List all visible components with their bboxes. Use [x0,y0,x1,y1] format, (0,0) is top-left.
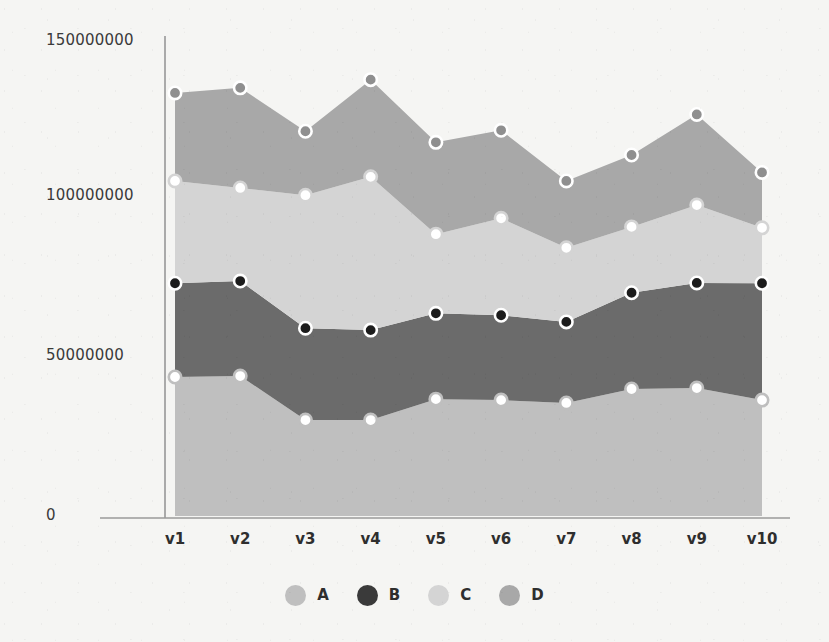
data-point-marker-c-v10[interactable] [756,222,768,234]
chart-legend: ABCD [0,578,829,612]
x-axis-tick-label-v9: v9 [687,530,707,548]
x-axis-tick-label-v2: v2 [230,530,250,548]
data-point-marker-b-v10[interactable] [756,277,768,289]
x-axis-tick-label-v10: v10 [747,530,778,548]
data-point-marker-b-v8[interactable] [625,287,637,299]
data-point-marker-c-v4[interactable] [364,171,376,183]
data-point-marker-c-v5[interactable] [430,228,442,240]
data-point-marker-b-v3[interactable] [299,322,311,334]
x-axis-tick-label-v5: v5 [426,530,446,548]
legend-label-c: C [460,586,471,604]
data-point-marker-c-v7[interactable] [560,242,572,254]
legend-swatch-b-icon [357,585,378,606]
data-point-marker-c-v9[interactable] [691,199,703,211]
data-point-marker-d-v2[interactable] [234,82,246,94]
data-point-marker-b-v9[interactable] [691,277,703,289]
legend-item-c[interactable]: C [428,585,471,606]
chart-container: 150000000 100000000 50000000 0 v1v2v3v4v… [0,0,829,642]
data-point-marker-a-v9[interactable] [691,382,703,394]
data-point-marker-a-v8[interactable] [625,383,637,395]
data-point-marker-c-v3[interactable] [299,189,311,201]
data-point-marker-c-v1[interactable] [169,175,181,187]
legend-label-b: B [389,586,400,604]
legend-item-b[interactable]: B [357,585,400,606]
legend-label-d: D [531,586,543,604]
data-point-marker-a-v6[interactable] [495,394,507,406]
legend-swatch-a-icon [285,585,306,606]
data-point-marker-c-v8[interactable] [625,221,637,233]
data-point-marker-a-v7[interactable] [560,397,572,409]
data-point-marker-b-v2[interactable] [234,275,246,287]
data-point-marker-b-v7[interactable] [560,316,572,328]
data-point-marker-d-v4[interactable] [364,73,376,85]
data-point-marker-c-v2[interactable] [234,182,246,194]
data-point-marker-d-v1[interactable] [169,87,181,99]
legend-swatch-d-icon [499,585,520,606]
x-axis-tick-label-v7: v7 [556,530,576,548]
data-point-marker-a-v1[interactable] [169,371,181,383]
data-point-marker-c-v6[interactable] [495,212,507,224]
x-axis-tick-label-v1: v1 [165,530,185,548]
data-point-marker-d-v9[interactable] [691,108,703,120]
data-point-marker-d-v7[interactable] [560,175,572,187]
stacked-areas-group [175,80,762,516]
data-point-marker-d-v3[interactable] [299,125,311,137]
data-point-marker-d-v5[interactable] [430,136,442,148]
data-point-marker-a-v4[interactable] [364,414,376,426]
data-point-marker-d-v8[interactable] [625,149,637,161]
legend-label-a: A [317,586,329,604]
x-axis-tick-label-v4: v4 [361,530,381,548]
data-point-marker-a-v3[interactable] [299,414,311,426]
data-point-marker-a-v5[interactable] [430,393,442,405]
data-point-marker-a-v10[interactable] [756,394,768,406]
data-point-marker-a-v2[interactable] [234,370,246,382]
legend-swatch-c-icon [428,585,449,606]
legend-item-d[interactable]: D [499,585,543,606]
data-point-marker-b-v1[interactable] [169,277,181,289]
data-point-marker-b-v5[interactable] [430,307,442,319]
data-point-marker-b-v6[interactable] [495,309,507,321]
data-point-marker-d-v10[interactable] [756,166,768,178]
x-axis-tick-label-v6: v6 [491,530,511,548]
x-axis-tick-label-v8: v8 [621,530,641,548]
data-point-marker-d-v6[interactable] [495,124,507,136]
legend-item-a[interactable]: A [285,585,329,606]
x-axis-tick-label-v3: v3 [295,530,315,548]
data-point-marker-b-v4[interactable] [364,324,376,336]
